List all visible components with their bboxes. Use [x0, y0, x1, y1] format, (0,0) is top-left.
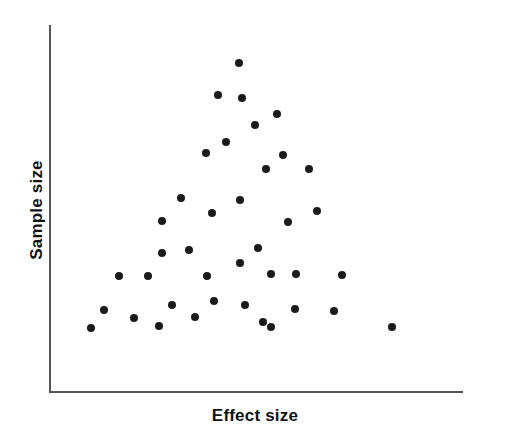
scatter-point: [210, 297, 218, 305]
scatter-point: [191, 313, 199, 321]
scatter-point: [262, 165, 270, 173]
scatter-point: [338, 271, 346, 279]
scatter-point: [291, 305, 299, 313]
scatter-point: [259, 318, 267, 326]
scatter-point: [177, 194, 185, 202]
scatter-point: [155, 322, 163, 330]
scatter-point: [87, 324, 95, 332]
scatter-point: [305, 165, 313, 173]
scatter-point: [222, 138, 230, 146]
scatter-point: [241, 301, 249, 309]
y-axis-label: Sample size: [27, 130, 47, 290]
scatter-point: [185, 246, 193, 254]
scatter-point: [158, 217, 166, 225]
scatter-point: [214, 91, 222, 99]
scatter-point: [236, 196, 244, 204]
scatter-point: [313, 207, 321, 215]
scatter-point: [235, 59, 243, 67]
scatter-point: [292, 270, 300, 278]
scatter-point: [251, 121, 259, 129]
scatter-point: [330, 307, 338, 315]
scatter-point: [267, 270, 275, 278]
scatter-point: [158, 249, 166, 257]
scatter-point: [254, 244, 262, 252]
x-axis-label: Effect size: [175, 406, 335, 426]
plot-area: [0, 0, 507, 446]
scatter-point: [238, 94, 246, 102]
scatter-point: [130, 314, 138, 322]
x-axis-line: [49, 391, 463, 393]
scatter-point: [284, 218, 292, 226]
scatter-point: [100, 306, 108, 314]
funnel-plot-figure: Sample size Effect size: [0, 0, 507, 446]
y-axis-line: [49, 25, 51, 393]
scatter-point: [279, 151, 287, 159]
scatter-point: [388, 323, 396, 331]
scatter-point: [208, 209, 216, 217]
scatter-point: [202, 149, 210, 157]
scatter-point: [273, 110, 281, 118]
scatter-point: [144, 272, 152, 280]
scatter-point: [236, 259, 244, 267]
scatter-point: [267, 323, 275, 331]
scatter-point: [203, 272, 211, 280]
scatter-point: [115, 272, 123, 280]
scatter-point: [168, 301, 176, 309]
